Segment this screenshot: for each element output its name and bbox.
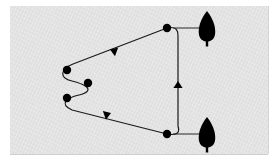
leaf-top xyxy=(199,11,215,47)
n-left-middle xyxy=(84,79,92,87)
main-loop-path xyxy=(63,27,179,134)
arrow-right-vertical xyxy=(173,81,182,88)
leaf-blade-shape xyxy=(199,117,215,148)
leaf-bottom xyxy=(199,117,215,153)
n-bottom-right xyxy=(163,130,171,138)
leaf-blade-shape xyxy=(199,11,215,42)
n-left-upper xyxy=(63,66,71,74)
diagram-canvas xyxy=(10,6,268,154)
n-left-lower xyxy=(63,94,71,102)
leaf-terminal-group xyxy=(199,11,215,153)
n-top-right xyxy=(163,24,171,32)
leaf-stem-shape xyxy=(206,39,208,47)
diagram-panel xyxy=(10,6,268,154)
flow-arrow-group xyxy=(103,45,183,120)
figure-root: Directed circuit diagram with two leaf-s… xyxy=(0,0,277,163)
leaf-stem-shape xyxy=(206,145,208,153)
leaf-lead-group xyxy=(173,28,199,134)
